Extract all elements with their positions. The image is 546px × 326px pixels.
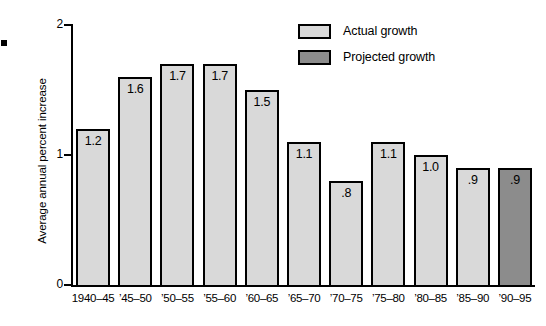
bar-value-label: 1.2 [78,134,108,148]
legend-swatch-projected [298,50,331,65]
legend-swatch-actual [298,24,331,39]
bar--65-70[interactable]: 1.1 [287,142,321,287]
bar-value-label: 1.7 [162,69,192,83]
chart-legend: Actual growthProjected growth [298,18,528,70]
x-axis-tick-label: ’90–95 [486,292,544,305]
bar-value-label: .9 [500,173,530,187]
legend-label-projected: Projected growth [343,50,435,64]
bar--50-55[interactable]: 1.7 [160,64,194,287]
bar-1940-45[interactable]: 1.2 [76,129,110,287]
bar--45-50[interactable]: 1.6 [118,77,152,287]
bar-value-label: .9 [458,173,488,187]
bar-value-label: 1.0 [416,160,446,174]
bar--90-95[interactable]: .9 [498,168,532,287]
bar--75-80[interactable]: 1.1 [371,142,405,287]
bar--85-90[interactable]: .9 [456,168,490,287]
legend-item-actual[interactable]: Actual growth [298,18,528,44]
legend-item-projected[interactable]: Projected growth [298,44,528,70]
bar-value-label: 1.1 [289,147,319,161]
bar-value-label: 1.6 [120,82,150,96]
bar-value-label: 1.7 [205,69,235,83]
bar-value-label: 1.5 [247,95,277,109]
bar--70-75[interactable]: .8 [329,181,363,287]
bar-value-label: .8 [331,186,361,200]
bar--60-65[interactable]: 1.5 [245,90,279,287]
bar--55-60[interactable]: 1.7 [203,64,237,287]
legend-label-actual: Actual growth [343,24,417,38]
bar-value-label: 1.1 [373,147,403,161]
bar-chart: 012 Average annual percent increase 1.21… [0,0,546,326]
bar--80-85[interactable]: 1.0 [414,155,448,287]
